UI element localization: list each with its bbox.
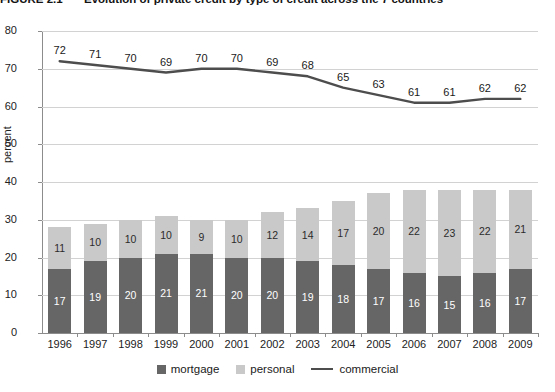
line-value-commercial-2008: 62 bbox=[465, 82, 505, 94]
x-tick-mark-2005 bbox=[396, 333, 397, 337]
x-tick-mark-2007 bbox=[467, 333, 468, 337]
line-value-commercial-2004: 65 bbox=[323, 71, 363, 83]
x-tick-mark-1996 bbox=[77, 333, 78, 337]
x-tick-mark-2006 bbox=[432, 333, 433, 337]
x-tick-mark-2001 bbox=[255, 333, 256, 337]
legend-label-commercial: commercial bbox=[339, 363, 398, 375]
x-tick-mark-1998 bbox=[148, 333, 149, 337]
y-tick-label-60: 60 bbox=[0, 100, 17, 112]
x-tick-mark-2009 bbox=[538, 333, 539, 337]
line-value-commercial-2000: 70 bbox=[181, 52, 221, 64]
figure-title-strip: FIGURE 2.1Evolution of private credit by… bbox=[0, 0, 555, 11]
y-tick-label-80: 80 bbox=[0, 24, 17, 36]
legend-label-mortgage: mortgage bbox=[171, 363, 220, 375]
square-swatch-icon-mortgage bbox=[157, 365, 166, 374]
line-value-commercial-1996: 72 bbox=[40, 44, 80, 56]
chart-legend: mortgagepersonalcommercial bbox=[0, 363, 555, 375]
x-tick-mark-1999 bbox=[184, 333, 185, 337]
legend-item-mortgage[interactable]: mortgage bbox=[157, 363, 220, 375]
y-tick-label-50: 50 bbox=[0, 137, 17, 149]
line-value-commercial-2009: 62 bbox=[500, 82, 540, 94]
line-swatch-icon-commercial bbox=[311, 368, 333, 370]
figure-title-text: Evolution of private credit by type of c… bbox=[84, 0, 443, 5]
y-tick-label-10: 10 bbox=[0, 288, 17, 300]
y-tick-label-20: 20 bbox=[0, 251, 17, 263]
y-tick-label-0: 0 bbox=[0, 326, 17, 338]
line-value-commercial-2002: 69 bbox=[252, 56, 292, 68]
y-tick-label-30: 30 bbox=[0, 213, 17, 225]
plot-area: 01020304050607080 1711191020102110219201… bbox=[42, 31, 538, 333]
figure-container: FIGURE 2.1Evolution of private credit by… bbox=[0, 0, 555, 392]
y-tick-label-40: 40 bbox=[0, 175, 17, 187]
figure-title: FIGURE 2.1Evolution of private credit by… bbox=[0, 0, 555, 5]
legend-item-commercial[interactable]: commercial bbox=[311, 363, 398, 375]
x-tick-mark-2000 bbox=[219, 333, 220, 337]
line-value-commercial-2005: 63 bbox=[359, 78, 399, 90]
line-value-commercial-1998: 70 bbox=[111, 52, 151, 64]
y-tick-mark-0 bbox=[38, 333, 42, 334]
figure-number: FIGURE 2.1 bbox=[0, 0, 84, 5]
legend-label-personal: personal bbox=[250, 363, 294, 375]
square-swatch-icon-personal bbox=[236, 365, 245, 374]
x-tick-mark-1997 bbox=[113, 333, 114, 337]
legend-item-personal[interactable]: personal bbox=[236, 363, 294, 375]
x-tick-mark-2003 bbox=[325, 333, 326, 337]
line-value-commercial-2003: 68 bbox=[288, 59, 328, 71]
line-value-commercial-1999: 69 bbox=[146, 56, 186, 68]
line-value-commercial-1997: 71 bbox=[75, 48, 115, 60]
x-tick-label-2009: 2009 bbox=[498, 338, 542, 350]
x-tick-mark-2002 bbox=[290, 333, 291, 337]
x-tick-mark-2008 bbox=[503, 333, 504, 337]
line-value-commercial-2001: 70 bbox=[217, 52, 257, 64]
x-tick-mark-2004 bbox=[361, 333, 362, 337]
line-value-commercial-2007: 61 bbox=[429, 86, 469, 98]
commercial-line-series bbox=[42, 31, 538, 333]
line-value-commercial-2006: 61 bbox=[394, 86, 434, 98]
y-tick-label-70: 70 bbox=[0, 62, 17, 74]
